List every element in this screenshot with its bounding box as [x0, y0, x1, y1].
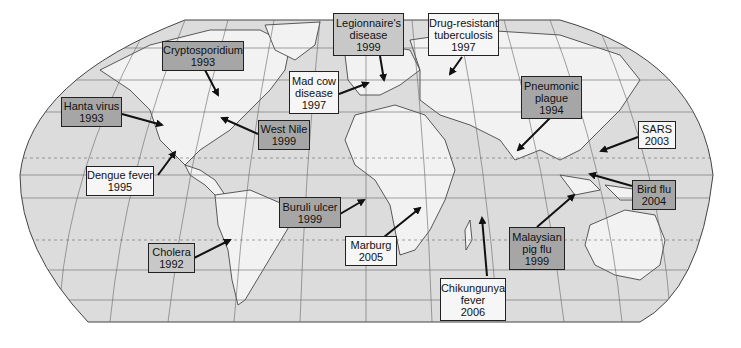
- label-dengue-fever: Dengue fever 1995: [86, 166, 154, 196]
- label-text-2: fever: [461, 294, 485, 306]
- label-text: Cryptosporidium: [163, 44, 243, 56]
- label-hanta-virus: Hanta virus 1993: [61, 97, 122, 127]
- label-year: 2006: [461, 306, 485, 318]
- label-text: Malaysian: [512, 231, 562, 243]
- label-mad-cow: Mad cow disease 1997: [289, 71, 339, 114]
- label-text: Buruli ulcer: [282, 201, 337, 213]
- label-text: Chikungunya: [441, 282, 505, 294]
- label-legionnaires: Legionnaire's disease 1999: [333, 13, 404, 56]
- label-text: Dengue fever: [87, 169, 153, 181]
- label-year: 2005: [359, 251, 383, 263]
- label-year: 1994: [539, 104, 563, 116]
- label-text-2: disease: [295, 87, 333, 99]
- label-year: 1999: [525, 255, 549, 267]
- label-text: Hanta virus: [64, 100, 120, 112]
- label-text: Marburg: [351, 239, 392, 251]
- label-text: SARS: [642, 123, 672, 135]
- label-malaysian-pig-flu: Malaysian pig flu 1999: [509, 227, 565, 270]
- label-text: Pneumonic: [524, 80, 579, 92]
- label-year: 1992: [159, 258, 183, 270]
- label-drug-resistant-tb: Drug-resistant tuberculosis 1997: [428, 13, 499, 56]
- label-pneumonic-plague: Pneumonic plague 1994: [521, 76, 582, 119]
- label-text-2: pig flu: [522, 243, 551, 255]
- label-year: 1993: [79, 112, 103, 124]
- label-bird-flu: Bird flu 2004: [632, 180, 676, 210]
- label-text: Drug-resistant: [429, 17, 498, 29]
- label-sars: SARS 2003: [638, 121, 676, 149]
- label-text-2: disease: [350, 29, 388, 41]
- label-text-2: plague: [535, 92, 568, 104]
- label-west-nile: West Nile 1999: [258, 120, 310, 150]
- label-year: 1993: [191, 56, 215, 68]
- label-year: 1997: [451, 41, 475, 53]
- label-text: Bird flu: [637, 183, 671, 195]
- label-text: Mad cow: [292, 75, 336, 87]
- label-marburg: Marburg 2005: [345, 236, 397, 266]
- label-year: 1995: [108, 181, 132, 193]
- label-year: 1999: [298, 213, 322, 225]
- label-text-2: tuberculosis: [434, 29, 493, 41]
- label-year: 2004: [642, 195, 666, 207]
- label-text: Legionnaire's: [336, 17, 401, 29]
- label-text: Cholera: [152, 246, 191, 258]
- label-year: 1999: [356, 41, 380, 53]
- label-year: 1999: [272, 135, 296, 147]
- label-buruli-ulcer: Buruli ulcer 1999: [279, 197, 341, 228]
- label-text: West Nile: [261, 123, 308, 135]
- label-year: 2003: [645, 135, 669, 147]
- label-year: 1997: [302, 99, 326, 111]
- label-cryptosporidium: Cryptosporidium 1993: [162, 41, 244, 71]
- label-cholera: Cholera 1992: [148, 243, 195, 273]
- label-chikungunya: Chikungunya fever 2006: [440, 278, 506, 321]
